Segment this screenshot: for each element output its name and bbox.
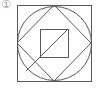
- geometry-figure: [0, 0, 98, 93]
- inscribed-circle: [18, 7, 92, 81]
- inner-square: [41, 30, 69, 58]
- diagonal-line: [26, 29, 68, 71]
